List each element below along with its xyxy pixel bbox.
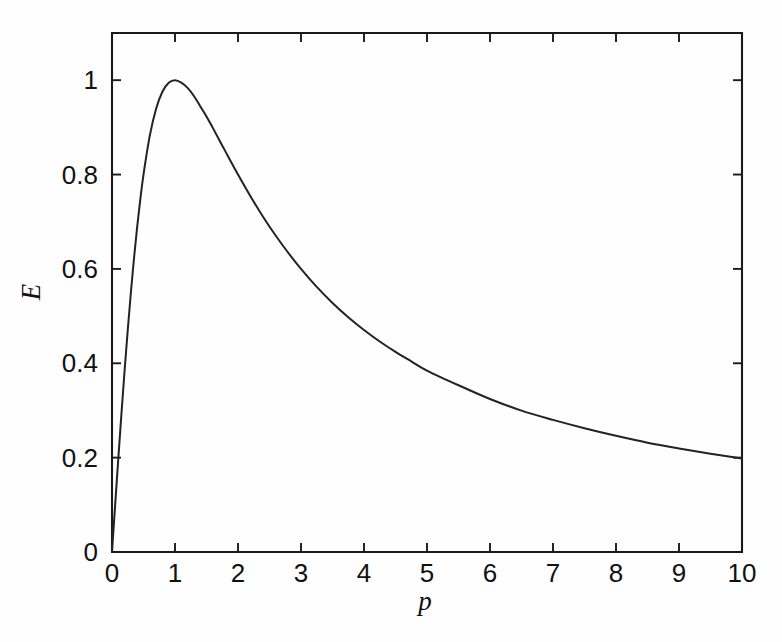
y-tick-label: 0 (84, 537, 98, 567)
x-axis-tick-labels: 012345678910 (105, 558, 757, 588)
y-tick-label: 0.6 (62, 254, 98, 284)
plot-canvas: 012345678910 00.20.40.60.81 p E (0, 0, 782, 642)
data-curve (112, 80, 742, 552)
x-tick-label: 10 (728, 558, 757, 588)
y-tick-label: 0.2 (62, 443, 98, 473)
x-tick-label: 1 (168, 558, 182, 588)
x-tick-label: 7 (546, 558, 560, 588)
x-tick-label: 9 (672, 558, 686, 588)
data-series-group (112, 80, 742, 552)
x-tick-label: 8 (609, 558, 623, 588)
x-axis-title: p (416, 586, 432, 616)
x-tick-label: 0 (105, 558, 119, 588)
y-tick-label: 0.8 (62, 160, 98, 190)
x-tick-label: 5 (420, 558, 434, 588)
y-axis-tick-labels: 00.20.40.60.81 (62, 65, 98, 567)
axis-box (112, 33, 742, 552)
x-tick-label: 3 (294, 558, 308, 588)
x-tick-label: 2 (231, 558, 245, 588)
x-tick-label: 4 (357, 558, 371, 588)
x-axis-ticks-bottom (112, 543, 742, 552)
y-tick-label: 1 (84, 65, 98, 95)
x-tick-label: 6 (483, 558, 497, 588)
y-axis-title: E (16, 283, 46, 301)
axes-frame (112, 33, 742, 552)
y-tick-label: 0.4 (62, 348, 98, 378)
x-axis-ticks-top (112, 33, 742, 42)
chart-figure: 012345678910 00.20.40.60.81 p E (0, 0, 782, 642)
y-axis-ticks-right (733, 80, 742, 552)
